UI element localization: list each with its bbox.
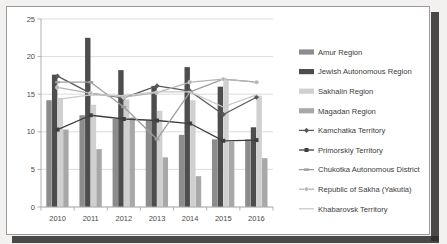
x-axis-tick-label: 2016: [248, 214, 265, 223]
x-axis-tick-label: 2012: [116, 214, 133, 223]
legend-marker-primorskiy-territory: [305, 148, 309, 152]
legend-label-kamchatka-territory: Kamchatka Territory: [318, 126, 386, 135]
page-shadow-bottom: [12, 236, 439, 243]
bar-sakhalin-region: [190, 100, 195, 207]
bar-sakhalin-region: [256, 96, 261, 207]
legend-label-republic-of-sakha-yakutia-: Republic of Sakha (Yakutia): [318, 185, 412, 194]
bar-magadan-region: [229, 142, 234, 207]
marker-primorskiy-territory: [56, 128, 60, 132]
marker-primorskiy-territory: [89, 113, 93, 117]
marker-primorskiy-territory: [122, 117, 126, 121]
marker-republic-of-sakha-yakutia-: [188, 80, 192, 84]
marker-republic-of-sakha-yakutia-: [221, 77, 225, 81]
marker-primorskiy-territory: [155, 119, 159, 123]
bar-amur-region: [46, 100, 51, 207]
legend-swatch-amur-region: [299, 49, 314, 54]
legend-label-chukotka-autonomous-district: Chukotka Autonomous District: [318, 165, 421, 174]
y-axis-tick-label: 0: [31, 203, 35, 212]
legend-label-amur-region: Amur Region: [318, 48, 362, 57]
bar-magadan-region: [63, 130, 68, 207]
bar-sakhalin-region: [124, 99, 129, 207]
bar-jewish-autonomous-region: [185, 67, 190, 207]
legend-swatch-sakhalin-region: [299, 89, 314, 94]
legend-swatch-jewish-autonomous-region: [299, 69, 314, 74]
page-shadow-right: [431, 12, 439, 241]
legend-label-jewish-autonomous-region: Jewish Autonomous Region: [318, 67, 412, 76]
marker-primorskiy-territory: [188, 122, 192, 126]
y-axis-tick-label: 10: [27, 127, 35, 136]
chart-frame: 0510152025 2010201120122013201420152016 …: [6, 6, 430, 235]
bar-magadan-region: [196, 176, 201, 207]
bar-amur-region: [212, 139, 217, 207]
bar-magadan-region: [129, 118, 134, 207]
screenshot-page: 0510152025 2010201120122013201420152016 …: [0, 0, 447, 244]
legend-label-khabarovsk-territory: Khabarovsk Territory: [318, 205, 388, 214]
bar-jewish-autonomous-region: [52, 75, 57, 207]
bar-magadan-region: [262, 158, 267, 207]
y-axis-tick-label: 5: [31, 165, 35, 174]
x-axis-tick-label: 2011: [83, 214, 99, 223]
marker-republic-of-sakha-yakutia-: [254, 80, 258, 84]
legend-marker-republic-of-sakha-yakutia-: [304, 187, 308, 191]
bar-sakhalin-region: [91, 105, 96, 207]
bar-sakhalin-region: [223, 79, 228, 207]
legend-label-magadan-region: Magadan Region: [318, 107, 376, 116]
marker-primorskiy-territory: [221, 139, 225, 143]
legend-label-sakhalin-region: Sakhalin Region: [318, 87, 373, 96]
x-axis-tick-label: 2015: [215, 214, 232, 223]
marker-republic-of-sakha-yakutia-: [55, 85, 59, 89]
grouped-bar-line-chart: 0510152025 2010201120122013201420152016 …: [7, 7, 429, 234]
bar-amur-region: [245, 139, 250, 207]
x-axis-tick-label: 2013: [149, 214, 166, 223]
bar-sakhalin-region: [58, 98, 63, 207]
y-axis-tick-label: 20: [27, 52, 35, 61]
legend-label-primorskiy-territory: Primorskiy Territory: [318, 146, 383, 155]
legend-item-chukotka-autonomous-district: Chukotka Autonomous District: [299, 165, 421, 174]
x-axis-tick-label: 2010: [49, 214, 66, 223]
y-axis-tick-label: 25: [27, 15, 35, 24]
bar-jewish-autonomous-region: [151, 86, 156, 207]
legend-swatch-magadan-region: [299, 108, 314, 113]
bar-amur-region: [179, 135, 184, 207]
bar-jewish-autonomous-region: [85, 38, 90, 207]
bar-magadan-region: [96, 149, 101, 207]
bar-amur-region: [113, 119, 118, 207]
bar-amur-region: [79, 115, 84, 207]
bar-sakhalin-region: [157, 111, 162, 207]
marker-primorskiy-territory: [254, 138, 258, 142]
y-axis-tick-label: 15: [27, 90, 35, 99]
bar-magadan-region: [163, 157, 168, 207]
x-axis-tick-label: 2014: [182, 214, 199, 223]
bar-jewish-autonomous-region: [118, 70, 123, 207]
